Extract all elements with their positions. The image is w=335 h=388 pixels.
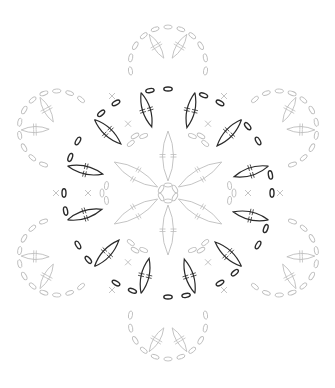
chain-oval-icon: [53, 293, 61, 297]
dc-cluster-icon: [94, 240, 119, 266]
chain-oval-icon: [270, 189, 274, 197]
sc-x-icon: [85, 190, 91, 196]
chain-oval-icon: [130, 246, 139, 254]
chain-oval-icon: [20, 105, 28, 114]
dc-cluster-icon: [217, 119, 242, 145]
sc-x-icon: [221, 93, 227, 99]
chain-oval-icon: [188, 247, 197, 254]
sc-x-icon: [53, 190, 59, 196]
chain-oval-icon: [77, 95, 86, 103]
current-round: [62, 87, 274, 299]
dc-cluster-icon: [40, 264, 53, 289]
dc-cluster-icon: [287, 253, 315, 259]
chain-oval-icon: [299, 282, 308, 290]
dc-cluster-icon: [178, 199, 221, 224]
chain-oval-icon: [28, 96, 37, 104]
chain-oval-icon: [20, 143, 28, 152]
chain-oval-icon: [97, 109, 106, 117]
chain-oval-icon: [314, 118, 319, 127]
chain-oval-icon: [28, 154, 37, 163]
dc-cluster-icon: [215, 242, 241, 267]
chain-oval-icon: [53, 89, 61, 93]
chain-oval-icon: [74, 136, 82, 145]
chain-oval-icon: [164, 295, 172, 299]
chain-oval-icon: [164, 25, 172, 29]
chain-oval-icon: [299, 154, 308, 163]
chain-oval-icon: [308, 234, 316, 243]
chain-oval-icon: [203, 66, 208, 75]
chain-oval-icon: [299, 96, 308, 104]
chain-oval-icon: [262, 224, 269, 233]
chain-oval-icon: [128, 311, 133, 320]
chain-oval-icon: [164, 87, 172, 91]
chain-oval-icon: [157, 184, 165, 193]
chain-oval-icon: [308, 271, 316, 280]
chain-oval-icon: [227, 196, 232, 205]
chain-oval-icon: [111, 279, 120, 287]
dc-cluster-icon: [149, 34, 164, 58]
chain-oval-icon: [199, 92, 208, 99]
sc-x-icon: [109, 287, 115, 293]
chain-oval-icon: [171, 184, 179, 193]
chain-oval-icon: [232, 189, 236, 197]
sc-x-icon: [125, 259, 131, 265]
chain-oval-icon: [275, 89, 283, 93]
chain-oval-icon: [150, 26, 159, 33]
chain-oval-icon: [139, 32, 148, 40]
dc-cluster-icon: [172, 328, 187, 352]
dc-cluster-icon: [149, 328, 164, 352]
chain-oval-icon: [287, 289, 296, 296]
chain-oval-icon: [17, 131, 22, 140]
chain-oval-icon: [188, 346, 197, 354]
sc-x-icon: [109, 93, 115, 99]
sc-x-icon: [205, 259, 211, 265]
chain-oval-icon: [131, 41, 139, 50]
chain-oval-icon: [176, 26, 185, 33]
chain-oval-icon: [164, 357, 172, 361]
inner-rounds: [85, 121, 251, 266]
chain-oval-icon: [201, 139, 210, 147]
chain-oval-icon: [254, 136, 262, 145]
dc-cluster-icon: [163, 205, 174, 255]
chain-oval-icon: [139, 132, 148, 139]
crochet-chart: [0, 0, 335, 388]
chain-oval-icon: [164, 183, 172, 187]
chain-oval-icon: [74, 240, 82, 249]
dc-cluster-icon: [40, 97, 53, 122]
dc-cluster-icon: [178, 162, 221, 187]
chain-oval-icon: [128, 287, 137, 294]
sc-x-icon: [245, 190, 251, 196]
chain-oval-icon: [182, 293, 191, 298]
chain-oval-icon: [17, 118, 22, 127]
chain-oval-icon: [196, 246, 205, 254]
chain-oval-icon: [314, 259, 319, 268]
dc-cluster-icon: [172, 34, 187, 58]
sc-x-icon: [125, 121, 131, 127]
chain-oval-icon: [128, 53, 134, 62]
chain-oval-icon: [63, 207, 68, 216]
chain-oval-icon: [150, 353, 159, 360]
chain-oval-icon: [243, 122, 251, 131]
chain-oval-icon: [176, 353, 185, 360]
chain-oval-icon: [77, 282, 86, 290]
chain-oval-icon: [308, 105, 316, 114]
chain-oval-icon: [314, 131, 319, 140]
dc-cluster-icon: [94, 119, 120, 144]
chain-oval-icon: [17, 246, 22, 255]
chain-oval-icon: [128, 324, 134, 333]
chain-oval-icon: [268, 170, 273, 179]
chain-oval-icon: [104, 181, 109, 190]
chain-oval-icon: [164, 199, 172, 203]
chain-oval-icon: [262, 90, 271, 97]
chain-oval-icon: [28, 224, 37, 233]
chain-oval-icon: [126, 238, 135, 246]
chain-oval-icon: [308, 143, 316, 152]
dc-cluster-icon: [283, 97, 296, 122]
chain-oval-icon: [28, 282, 37, 290]
chain-oval-icon: [139, 346, 148, 354]
chain-oval-icon: [65, 90, 74, 97]
chain-oval-icon: [65, 290, 74, 297]
chain-oval-icon: [20, 234, 28, 243]
chain-oval-icon: [126, 139, 135, 147]
sc-x-icon: [205, 121, 211, 127]
